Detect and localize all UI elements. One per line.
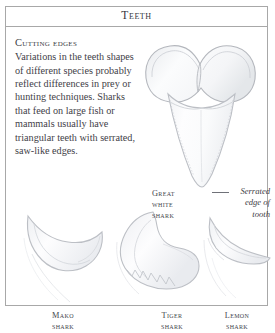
caption-line-3: shark [152, 211, 198, 222]
caption-line-2: white [152, 200, 198, 211]
caption-great-white-shark: Great white shark [152, 189, 198, 222]
section-body-text: Variations in the teeth shapes of differ… [15, 50, 139, 158]
caption-line-1: Mako [33, 311, 93, 322]
caption-tiger-shark: Tiger shark [144, 311, 200, 333]
page-title: Teeth [121, 10, 151, 23]
caption-line-2: shark [209, 322, 265, 333]
caption-line-1: Lemon [209, 311, 265, 322]
lemon-root-hint [204, 240, 226, 296]
caption-lemon-shark: Lemon shark [209, 311, 265, 333]
caption-line-1: Great [152, 189, 198, 200]
root-notch [197, 63, 201, 92]
content-frame: Teeth [5, 6, 268, 306]
serration-left [170, 100, 194, 176]
caption-mako-shark: Mako shark [33, 311, 93, 333]
annotation-line-3: tooth [212, 209, 270, 220]
serration-right [210, 100, 233, 175]
tiger-crown-shape [121, 212, 200, 289]
great-white-shark-tooth-illustration [136, 30, 266, 195]
tiger-shark-tooth-illustration [101, 208, 211, 310]
caption-line-2: shark [144, 322, 200, 333]
article-text-column: Cutting edges Variations in the teeth sh… [15, 36, 139, 158]
serrated-edge-annotation: Serrated edge of tooth [212, 186, 270, 220]
mako-root-hint [32, 254, 70, 302]
annotation-line-2: edge of [212, 197, 270, 208]
caption-line-2: shark [33, 322, 93, 333]
caption-line-1: Tiger [144, 311, 200, 322]
panel-header: Teeth [6, 7, 267, 27]
section-heading: Cutting edges [15, 36, 139, 49]
annotation-line-1: Serrated [212, 186, 270, 197]
mako-crown-shape [28, 216, 103, 271]
mako-shark-tooth-illustration [14, 210, 110, 310]
tooth-crown-shape [168, 94, 235, 187]
tooth-root-shape [146, 46, 256, 103]
lemon-shark-tooth-illustration [194, 210, 272, 308]
lemon-crown-shape [209, 218, 270, 264]
panel-body: Cutting edges Variations in the teeth sh… [6, 28, 267, 306]
tiger-serrations [127, 270, 175, 286]
